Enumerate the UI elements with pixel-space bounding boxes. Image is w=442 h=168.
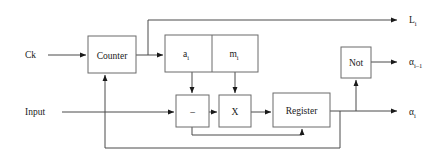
label-l-subscript: i	[415, 20, 417, 27]
block-counter-label: Counter	[97, 51, 128, 61]
wire-feedback-to-register	[192, 127, 302, 135]
block-multiply[interactable]: X	[219, 95, 251, 127]
cell-m-subscript: i	[237, 54, 239, 61]
block-not[interactable]: Not	[341, 47, 371, 78]
block-subtract[interactable]: –	[176, 95, 209, 127]
block-register[interactable]: Register	[273, 93, 330, 127]
block-register-label: Register	[286, 106, 318, 116]
label-alpha-output: αi	[409, 107, 416, 119]
label-l-output: Li	[409, 15, 417, 27]
block-memory-row[interactable]: ai mi	[165, 35, 258, 72]
label-input-text: Input	[25, 107, 45, 117]
block-not-label: Not	[349, 58, 364, 68]
diagram-canvas: Counter ai mi – X Register	[0, 0, 442, 168]
label-ck: Ck	[25, 50, 36, 60]
svg-text:αi–1: αi–1	[409, 57, 422, 69]
block-diagram: Counter ai mi – X Register	[0, 0, 442, 168]
svg-text:αi: αi	[409, 107, 416, 119]
label-input: Input	[25, 107, 45, 117]
label-alpha-prev-subscript: i–1	[414, 62, 422, 69]
label-alpha-prev-output: αi–1	[409, 57, 422, 69]
block-multiply-label: X	[232, 107, 239, 117]
block-subtract-label: –	[189, 107, 195, 117]
svg-text:Li: Li	[409, 15, 417, 27]
block-counter[interactable]: Counter	[88, 36, 136, 73]
cell-a-subscript: i	[187, 54, 189, 61]
label-alpha-subscript: i	[414, 112, 416, 119]
label-ck-text: Ck	[25, 50, 36, 60]
